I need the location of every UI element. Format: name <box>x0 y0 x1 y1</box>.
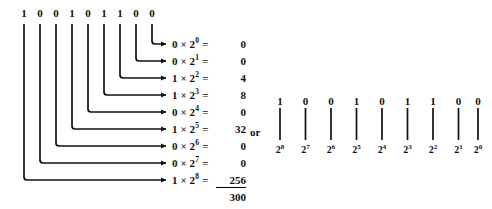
row-exponent: 8 <box>195 172 199 181</box>
binary-digit: 1 <box>114 8 126 19</box>
row-value: 32 <box>216 124 246 135</box>
row-value: 0 <box>216 107 246 118</box>
place-power: 21 <box>450 145 468 155</box>
row-value: 8 <box>216 90 246 101</box>
or-label: or <box>250 127 260 138</box>
place-exponent: 2 <box>434 143 438 151</box>
row-value: 0 <box>216 39 246 50</box>
row-exponent: 3 <box>195 87 199 96</box>
multiply-icon: × <box>181 175 187 186</box>
row-bit: 0 <box>172 106 178 118</box>
binary-digit: 1 <box>66 8 78 19</box>
binary-digit: 0 <box>146 8 158 19</box>
equals-icon: = <box>202 55 208 67</box>
equals-icon: = <box>202 174 208 186</box>
place-exponent: 6 <box>332 143 336 151</box>
expansion-row: 1 × 23 = <box>172 90 209 101</box>
place-power: 27 <box>297 145 315 155</box>
figure-canvas: 1 0 0 1 0 1 1 0 0 0 × 20 = 0 0 × 21 = 0 … <box>0 0 492 209</box>
binary-digit: 1 <box>18 8 30 19</box>
row-bit: 1 <box>172 174 178 186</box>
binary-digit: 1 <box>98 8 110 19</box>
place-digit: 0 <box>471 96 485 107</box>
place-exponent: 0 <box>479 143 483 151</box>
place-digit: 1 <box>273 96 287 107</box>
equals-icon: = <box>202 157 208 169</box>
row-exponent: 0 <box>195 36 199 45</box>
row-value: 0 <box>216 56 246 67</box>
place-power: 26 <box>322 145 340 155</box>
binary-digit: 0 <box>82 8 94 19</box>
equals-icon: = <box>202 106 208 118</box>
row-exponent: 1 <box>195 53 199 62</box>
binary-digit: 0 <box>130 8 142 19</box>
row-exponent: 2 <box>195 70 199 79</box>
multiply-icon: × <box>181 39 187 50</box>
place-power: 23 <box>399 145 417 155</box>
place-digit: 1 <box>401 96 415 107</box>
expansion-row: 0 × 27 = <box>172 158 209 169</box>
row-exponent: 7 <box>195 155 199 164</box>
equals-icon: = <box>202 38 208 50</box>
multiply-icon: × <box>181 124 187 135</box>
row-bit: 0 <box>172 140 178 152</box>
place-digit: 1 <box>426 96 440 107</box>
row-value: 0 <box>216 158 246 169</box>
row-bit: 1 <box>172 89 178 101</box>
expansion-row: 0 × 26 = <box>172 141 209 152</box>
multiply-icon: × <box>181 107 187 118</box>
place-exponent: 7 <box>306 143 310 151</box>
row-exponent: 5 <box>195 121 199 130</box>
place-power: 20 <box>469 145 487 155</box>
row-value: 0 <box>216 141 246 152</box>
expansion-row: 1 × 25 = <box>172 124 209 135</box>
place-power: 24 <box>373 145 391 155</box>
equals-icon: = <box>202 123 208 135</box>
place-power: 28 <box>271 145 289 155</box>
decimal-total: 300 <box>216 192 246 203</box>
connector-lines <box>0 0 492 209</box>
expansion-row: 1 × 28 = <box>172 175 209 186</box>
row-bit: 0 <box>172 38 178 50</box>
place-power: 25 <box>348 145 366 155</box>
binary-digit: 0 <box>50 8 62 19</box>
multiply-icon: × <box>181 141 187 152</box>
place-exponent: 3 <box>408 143 412 151</box>
place-exponent: 4 <box>383 143 387 151</box>
row-exponent: 4 <box>195 104 199 113</box>
expansion-row: 0 × 24 = <box>172 107 209 118</box>
row-value: 256 <box>216 175 246 188</box>
place-digit: 0 <box>324 96 338 107</box>
equals-icon: = <box>202 140 208 152</box>
equals-icon: = <box>202 72 208 84</box>
binary-digit: 0 <box>34 8 46 19</box>
row-bit: 1 <box>172 123 178 135</box>
place-digit: 0 <box>299 96 313 107</box>
multiply-icon: × <box>181 56 187 67</box>
expansion-row: 0 × 20 = <box>172 39 209 50</box>
multiply-icon: × <box>181 73 187 84</box>
multiply-icon: × <box>181 158 187 169</box>
place-digit: 1 <box>350 96 364 107</box>
row-value: 4 <box>216 73 246 84</box>
place-exponent: 8 <box>281 143 285 151</box>
multiply-icon: × <box>181 90 187 101</box>
row-bit: 1 <box>172 72 178 84</box>
row-bit: 0 <box>172 55 178 67</box>
place-digit: 0 <box>452 96 466 107</box>
expansion-row: 1 × 22 = <box>172 73 209 84</box>
row-bit: 0 <box>172 157 178 169</box>
place-exponent: 5 <box>357 143 361 151</box>
expansion-row: 0 × 21 = <box>172 56 209 67</box>
row-exponent: 6 <box>195 138 199 147</box>
place-power: 22 <box>424 145 442 155</box>
place-digit: 0 <box>375 96 389 107</box>
equals-icon: = <box>202 89 208 101</box>
place-exponent: 1 <box>459 143 463 151</box>
